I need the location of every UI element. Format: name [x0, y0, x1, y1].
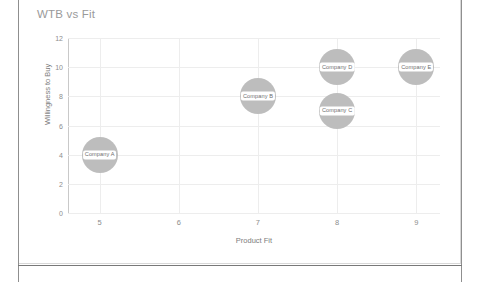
y-axis-tick-label: 12	[55, 35, 63, 42]
gridline-vertical	[100, 38, 101, 213]
y-axis-tick-label: 2	[59, 180, 63, 187]
gridline-horizontal	[68, 67, 440, 68]
y-axis-tick-label: 10	[55, 64, 63, 71]
gridline-horizontal	[68, 126, 440, 127]
y-axis-tick-label: 0	[59, 210, 63, 217]
gridline-horizontal	[68, 155, 440, 156]
plot-area: 02468101256789Company ACompany BCompany …	[68, 38, 440, 213]
bubble-point[interactable]: Company C	[319, 93, 355, 129]
page-border-right	[461, 0, 462, 282]
y-axis-label: Willingness to Buy	[43, 64, 52, 125]
x-axis-tick-label: 5	[98, 219, 102, 227]
y-axis-tick-label: 6	[59, 122, 63, 129]
y-axis-tick-label: 8	[59, 93, 63, 100]
bubble-point[interactable]: Company A	[82, 137, 118, 173]
bubble-point-label: Company C	[320, 106, 354, 115]
x-axis-tick-label: 6	[177, 219, 181, 227]
gridline-horizontal	[68, 38, 440, 39]
x-axis-tick-label: 7	[256, 219, 260, 227]
gridline-horizontal	[68, 213, 440, 214]
x-axis-tick-label: 9	[414, 219, 418, 227]
gridline-vertical	[179, 38, 180, 213]
y-axis-tick-label: 4	[59, 151, 63, 158]
plot-wrapper: 02468101256789Company ACompany BCompany …	[19, 0, 461, 264]
bubble-point[interactable]: Company D	[319, 49, 355, 85]
page-section-divider	[18, 265, 462, 266]
bubble-point-label: Company D	[320, 63, 354, 72]
bubble-point[interactable]: Company B	[240, 78, 276, 114]
bubble-point-label: Company A	[83, 150, 117, 159]
gridline-horizontal	[68, 184, 440, 185]
bubble-point-label: Company B	[241, 92, 275, 101]
bubble-point-label: Company E	[399, 63, 433, 72]
x-axis-label: Product Fit	[68, 236, 440, 245]
page-frame: WTB vs Fit 02468101256789Company ACompan…	[0, 0, 478, 282]
bubble-point[interactable]: Company E	[398, 49, 434, 85]
chart-card: WTB vs Fit 02468101256789Company ACompan…	[19, 0, 461, 264]
x-axis-tick-label: 8	[335, 219, 339, 227]
gridline-vertical	[258, 38, 259, 213]
